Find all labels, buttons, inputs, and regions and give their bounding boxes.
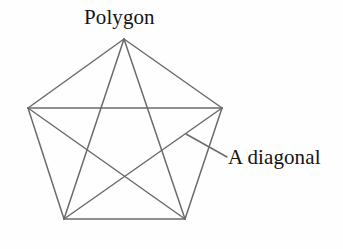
polygon-diagram: Polygon A diagonal [0, 0, 343, 249]
pentagon-diagonal [28, 108, 185, 219]
pentagon-edge [185, 108, 222, 219]
pentagon-diagonal [124, 39, 185, 219]
diagram-canvas [0, 0, 343, 249]
pentagon-edge [28, 39, 124, 108]
polygon-label: Polygon [84, 7, 155, 28]
pentagon-edge [28, 108, 64, 219]
pentagon-edge [124, 39, 222, 108]
pentagon-diagonal [64, 108, 222, 219]
pentagon-diagonal [64, 39, 124, 219]
pentagon-diagonals-group [28, 39, 222, 219]
diagonal-label: A diagonal [228, 147, 321, 168]
